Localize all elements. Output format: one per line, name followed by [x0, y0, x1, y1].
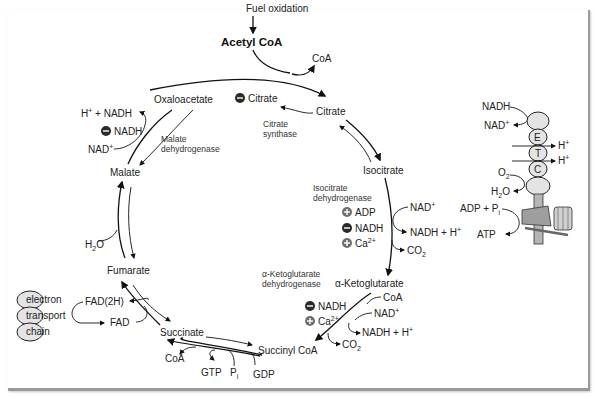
metabolite-succinyl-coa: Succinyl CoA [258, 345, 318, 356]
oxphos-adp-pi-label: ADP + Pi [460, 203, 500, 216]
gtp-arrow [210, 350, 215, 360]
etc-label-2: transport [26, 310, 66, 321]
electron-transport-chain: electron transport chain [17, 291, 66, 341]
citrate-synthase-label-2: synthase [263, 129, 297, 139]
fad2h-label: FAD(2H) [85, 296, 124, 307]
icdh-co2-arrow [392, 240, 404, 250]
icdh-adp-label: ADP [355, 207, 376, 218]
oxphos-nadh-label: NADH [482, 101, 510, 112]
svg-text:C: C [534, 164, 541, 175]
isocitrate-to-citrate-arrow [340, 126, 371, 162]
oxphos-h2o-label: H2O [491, 186, 510, 199]
nadh-in-line [510, 107, 528, 118]
akgdh-regulators: NADH Ca2+ [305, 301, 346, 327]
pi-label: Pi [230, 367, 239, 380]
metabolite-malate: Malate [110, 167, 140, 178]
coa-release-arrow [292, 66, 314, 75]
akgdh-nadh-arrow [349, 323, 360, 333]
icdh-nad-label: NAD+ [410, 201, 435, 213]
metabolite-succinate: Succinate [160, 327, 204, 338]
mdh-nadh-inhibitor-label: NADH [114, 126, 142, 137]
mdh-nadh-out-label: H+ + NADH [81, 107, 132, 119]
svg-text:T: T [535, 148, 541, 159]
coa-out-succ-label: CoA [165, 353, 185, 364]
akgdh-nadh-label: NADH [318, 301, 346, 312]
metabolite-alpha-ketoglutarate: α-Ketoglutarate [335, 278, 404, 289]
icdh-nadh-label: NADH [355, 223, 383, 234]
complex-top-icon [527, 112, 549, 130]
oxphos-o2-label: O2 [498, 167, 510, 180]
h2o-label: H2O [85, 239, 104, 252]
citrate-to-isocitrate-arrow [346, 120, 380, 160]
complex-bottom-icon [526, 177, 550, 195]
adp-to-atp-arrow [502, 209, 519, 234]
metabolite-oxaloacetate: Oxaloacetate [154, 94, 213, 105]
akgdh-co2-arrow [328, 333, 340, 344]
fad-label: FAD [110, 317, 129, 328]
akgdh-coa-in [367, 297, 381, 304]
etc-label-3: chain [26, 326, 50, 337]
akgdh-nad-in [355, 313, 372, 320]
icdh-label-2: dehydrogenase [313, 193, 372, 203]
mdh-label-2: dehydrogenase [161, 144, 220, 154]
metabolite-fumarate: Fumarate [107, 265, 150, 276]
acetyl-join-line [253, 50, 290, 73]
icdh-nadh-label: NADH + H+ [410, 226, 461, 238]
isocitrate-to-akg-arrow [385, 178, 392, 275]
metabolite-citrate: Citrate [316, 106, 346, 117]
metabolite-isocitrate: Isocitrate [363, 165, 404, 176]
akgdh-coa-label: CoA [383, 292, 403, 303]
oxphos-nad-label: NAD+ [484, 119, 509, 131]
icdh-regulators: ADP NADH Ca2+ [342, 207, 383, 249]
icdh-co2-label: CO2 [407, 245, 426, 258]
fuel-oxidation-label: Fuel oxidation [246, 3, 308, 14]
etc-label-1: electron [26, 294, 62, 305]
akgdh-label-1: α-Ketoglutarate [262, 269, 321, 279]
o2-to-h2o-arrow [510, 175, 524, 191]
coa-release-label: CoA [312, 53, 332, 64]
akgdh-co2-label: CO2 [342, 339, 361, 352]
akgdh-ca-label: Ca2+ [318, 315, 339, 327]
akgdh-label-2: dehydrogenase [262, 279, 321, 289]
akgdh-nad-label: NAD+ [374, 307, 399, 319]
mdh-nad-in-label: NAD+ [88, 143, 113, 155]
citrate-synthase-label-1: Citrate [263, 119, 288, 129]
proton-label-1: H+ [558, 139, 569, 151]
mdh-label-1: Malate [161, 134, 187, 144]
succcoa-backbone [181, 338, 262, 355]
oxphos-atp-label: ATP [477, 229, 496, 240]
fumarate-to-malate-arrow [118, 182, 125, 258]
proton-label-2: H+ [558, 154, 569, 166]
oxidative-phosphorylation-panel: NADH NAD+ E T C H+ H+ O2 H2O ADP + Pi AT… [460, 101, 572, 244]
akgdh-nadh-label: NADH + H+ [362, 326, 413, 338]
gtp-label: GTP [201, 367, 222, 378]
succinate-to-succinylcoa-arrow [206, 337, 252, 345]
tca-cycle-diagram: Fuel oxidation Acetyl CoA CoA Citrate Ci… [0, 0, 595, 397]
fad-in-line [136, 306, 147, 322]
atp-synthase-head-icon [522, 206, 551, 226]
icdh-label-1: Isocitrate [313, 183, 348, 193]
malate-to-fumarate-arrow [129, 187, 134, 258]
svg-text:E: E [534, 132, 541, 143]
pi-in-line [228, 350, 234, 366]
citrate-inhibitor-label: Citrate [248, 93, 278, 104]
icdh-ca-label: Ca2+ [355, 237, 376, 249]
gdp-label: GDP [253, 369, 275, 380]
citrate-feedback-arrow [281, 107, 313, 113]
nad-out-arrow [514, 120, 528, 125]
icdh-nad-cycle-arrow [393, 207, 408, 232]
acetyl-coa-label: Acetyl CoA [221, 36, 282, 48]
